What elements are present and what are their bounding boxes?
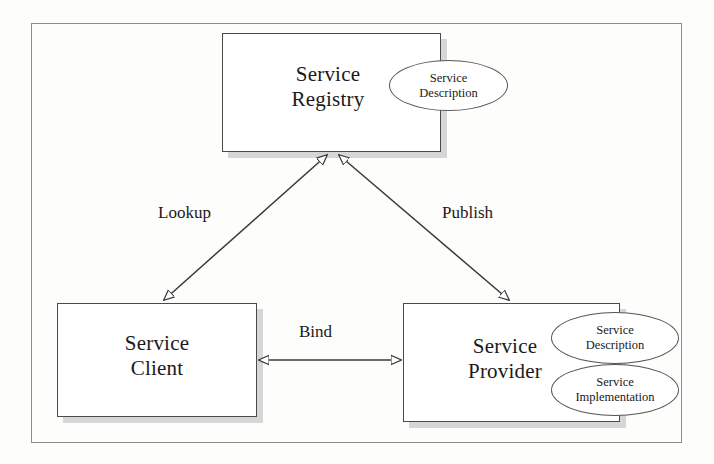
service-provider-label: Service Provider: [435, 334, 575, 384]
publish-edge-label: Publish: [442, 203, 493, 223]
service-client-label: Service Client: [87, 331, 227, 381]
service-registry-label: Service Registry: [258, 62, 398, 112]
diagram-canvas: Service Registry Service Description Ser…: [0, 0, 714, 464]
bind-edge-label: Bind: [299, 322, 332, 342]
lookup-edge-label: Lookup: [158, 203, 211, 223]
registry-service-description-ellipse[interactable]: Service Description: [389, 60, 508, 111]
